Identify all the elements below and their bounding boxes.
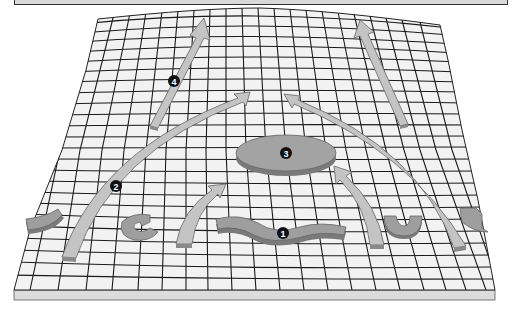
label-badge-4: 4 <box>168 75 180 87</box>
label-badge-3: 3 <box>280 147 292 159</box>
svg-text:2: 2 <box>113 182 118 192</box>
svg-text:1: 1 <box>280 229 285 239</box>
svg-text:3: 3 <box>283 149 288 159</box>
surface-base-edge <box>14 290 495 300</box>
diagram-canvas: 1 2 3 4 <box>0 0 521 309</box>
svg-text:4: 4 <box>171 77 176 87</box>
label-badge-2: 2 <box>110 180 122 192</box>
label-badge-1: 1 <box>277 227 289 239</box>
